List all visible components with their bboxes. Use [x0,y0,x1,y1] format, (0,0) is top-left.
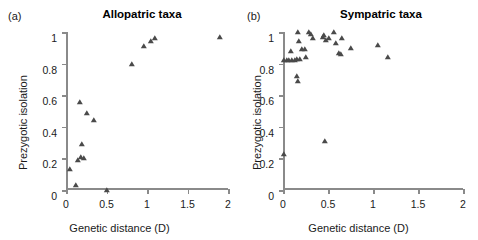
panel-title-b: Sympatric taxa [291,8,471,20]
data-point-marker [79,141,85,146]
x-axis-tick-label: 0.5 [321,198,336,210]
x-axis-tick-label: 0 [63,198,69,210]
data-point-marker [84,110,90,115]
y-axis-tick-label: 0.2 [42,158,57,170]
x-axis-tick [373,189,375,194]
y-axis-tick [62,190,67,192]
data-point-marker [331,29,337,34]
y-axis-tick [62,32,67,34]
y-axis-line-b [283,32,285,190]
y-axis-tick [279,64,284,66]
y-axis-tick [279,127,284,129]
data-point-marker [81,156,87,161]
data-point-marker [281,151,287,156]
panel-sympatric: (b) Sympatric taxa 00.511.5200.20.40.60.… [239,0,478,240]
y-axis-tick [279,32,284,34]
data-point-marker [385,55,391,60]
data-point-marker [326,36,332,41]
panel-title-a: Allopatric taxa [52,8,232,20]
x-axis-tick-label: 1.5 [411,198,426,210]
data-point-marker [295,78,301,83]
y-axis-tick-label: 1 [268,32,274,44]
y-axis-tick-label: 0.4 [42,127,57,139]
x-axis-tick-label: 2 [225,198,231,210]
data-point-marker [288,48,294,53]
data-point-marker [91,118,97,123]
data-point-marker [333,40,339,45]
data-point-marker [129,61,135,66]
y-axis-tick [62,158,67,160]
data-point-marker [141,44,147,49]
figure-container: (a) Allopatric taxa 00.511.5200.20.40.60… [0,0,478,240]
x-axis-tick-label: 1.5 [180,198,195,210]
y-axis-tick-label: 0.8 [259,64,274,76]
x-axis-tick [147,189,149,194]
data-point-marker [77,99,83,104]
y-axis-label-a: Prezygotic isolation [17,75,29,170]
x-axis-tick-label: 2 [460,198,466,210]
x-axis-tick [328,189,330,194]
data-point-marker [67,167,73,172]
y-axis-label-b: Prezygotic isolation [251,75,263,170]
x-axis-tick [463,189,465,194]
y-axis-tick-label: 0.8 [42,64,57,76]
panel-label-b: (b) [247,10,260,22]
data-point-marker [303,55,309,60]
panel-label-a: (a) [8,10,21,22]
data-point-marker [347,45,353,50]
data-point-marker [374,42,380,47]
data-point-marker [337,51,343,56]
y-axis-tick-label: 1 [51,32,57,44]
x-axis-tick [188,189,190,194]
data-point-marker [296,39,302,44]
x-axis-tick-label: 0.5 [99,198,114,210]
data-point-marker [322,138,328,143]
data-point-marker [295,29,301,34]
plot-area-allopatric: 00.511.5200.20.40.60.81 [66,32,228,190]
plot-area-sympatric: 00.511.5200.20.40.60.81 [283,32,463,190]
x-axis-label-b: Genetic distance (D) [239,222,478,234]
data-point-marker [152,36,158,41]
y-axis-tick [279,190,284,192]
data-point-marker [73,183,79,188]
data-point-marker [103,187,109,192]
y-axis-tick [279,158,284,160]
panel-allopatric: (a) Allopatric taxa 00.511.5200.20.40.60… [0,0,239,240]
y-axis-tick [62,127,67,129]
x-axis-tick-label: 0 [280,198,286,210]
x-axis-tick [228,189,230,194]
y-axis-tick [62,64,67,66]
data-point-marker [309,36,315,41]
data-point-marker [338,36,344,41]
y-axis-tick [279,95,284,97]
data-point-marker [301,47,307,52]
y-axis-tick [62,95,67,97]
y-axis-tick-label: 0 [51,190,57,202]
data-point-marker [297,56,303,61]
y-axis-tick-label: 0 [268,190,274,202]
y-axis-tick-label: 0.6 [42,95,57,107]
data-point-marker [217,34,223,39]
x-axis-tick [418,189,420,194]
x-axis-tick-label: 1 [144,198,150,210]
x-axis-label-a: Genetic distance (D) [0,222,239,234]
x-axis-tick-label: 1 [370,198,376,210]
